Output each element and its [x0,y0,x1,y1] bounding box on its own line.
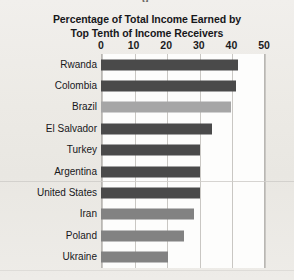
category-label-poland: Poland [0,230,97,242]
category-label-ukraine: Ukraine [0,251,97,263]
x-axis-tick-labels: 01020304050 [101,39,265,53]
bar-colombia [101,81,236,92]
bar-iran [101,209,194,220]
x-tick-label-10: 10 [128,39,140,52]
scan-fold-line [0,181,294,182]
bar-row: Turkey [0,140,294,161]
category-label-argentina: Argentina [0,166,97,178]
bar-row: Rwanda [0,54,294,75]
bar-brazil [101,102,231,113]
bar-rows: RwandaColombiaBrazilEl SalvadorTurkeyArg… [0,54,294,268]
bar-united-states [101,188,200,199]
category-label-iran: Iran [0,208,97,220]
bar-turkey [101,145,200,156]
chart-title-line-2: Top Tenth of Income Receivers [0,27,294,41]
bar-ukraine [101,252,168,263]
bar-row: Brazil [0,97,294,118]
category-label-turkey: Turkey [0,144,97,156]
bar-row: Argentina [0,161,294,182]
x-tick-label-0: 0 [98,39,104,52]
bar-row: Ukraine [0,247,294,268]
bar-row: United States [0,182,294,203]
x-tick-label-50: 50 [258,39,270,52]
bar-poland [101,230,184,241]
bar-rwanda [101,59,238,70]
category-label-united-states: United States [0,187,97,199]
category-label-colombia: Colombia [0,80,97,92]
bar-el-salvador [101,123,212,134]
bar-row: Colombia [0,75,294,96]
x-tick-label-20: 20 [160,39,172,52]
category-label-rwanda: Rwanda [0,59,97,71]
bar-argentina [101,166,200,177]
bar-row: Iran [0,204,294,225]
bar-row: Poland [0,225,294,246]
category-label-brazil: Brazil [0,101,97,113]
scan-fold-line-lower [0,270,294,271]
bar-chart: Percentage of Total Income Earned by Top… [0,0,294,280]
category-label-el-salvador: El Salvador [0,123,97,135]
x-tick-label-40: 40 [226,39,238,52]
chart-title: Percentage of Total Income Earned by Top… [0,13,294,40]
bar-row: El Salvador [0,118,294,139]
x-tick-label-30: 30 [193,39,205,52]
chart-title-line-1: Percentage of Total Income Earned by [0,13,294,27]
